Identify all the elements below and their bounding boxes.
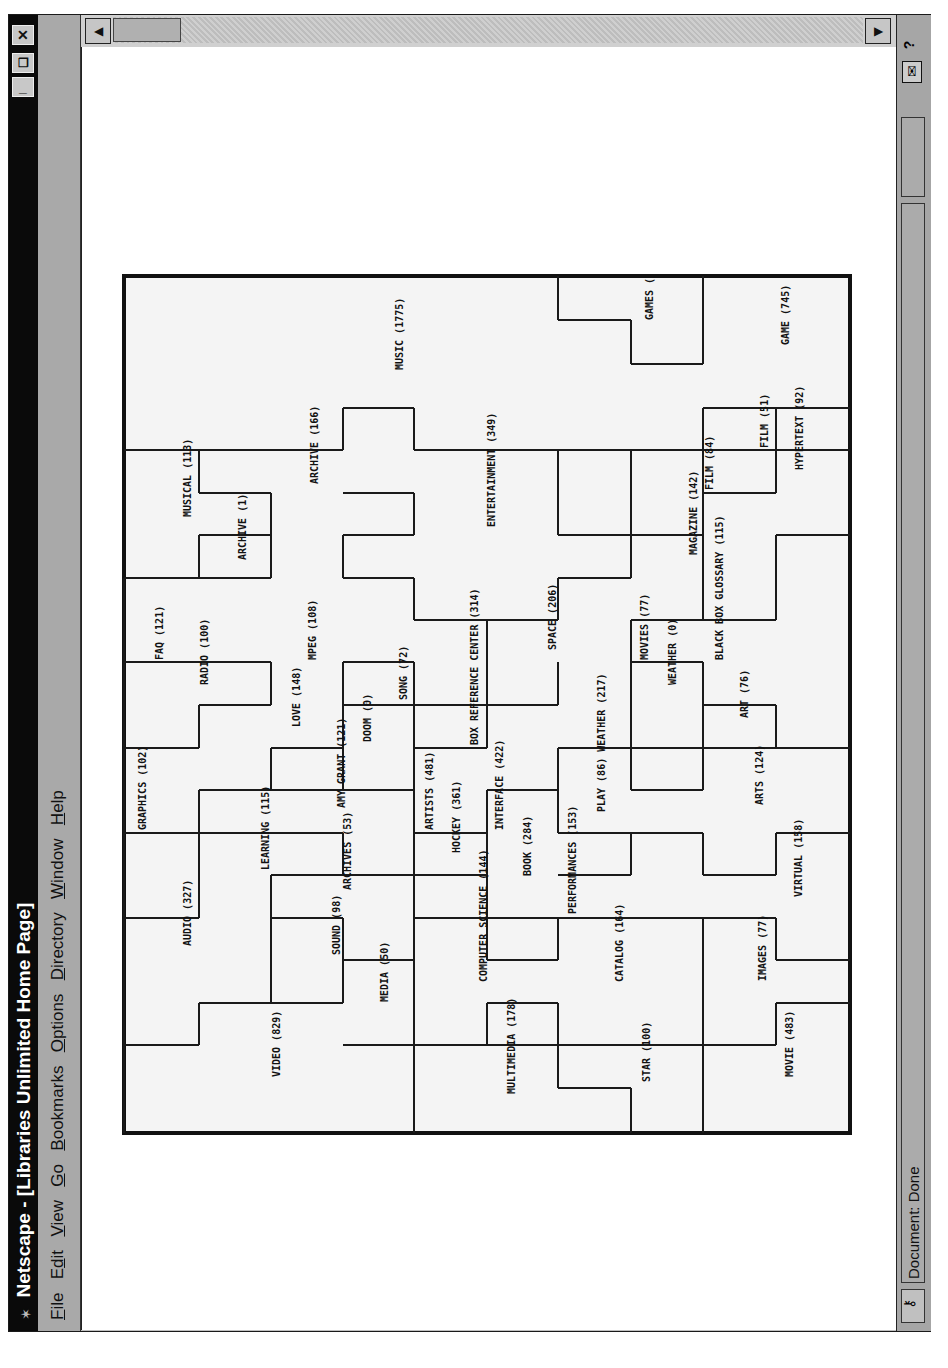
map-region-label[interactable]: BOOK (284) — [522, 816, 533, 876]
map-region-label[interactable]: RADIO (100) — [199, 619, 210, 685]
status-bar: Document: Done ⚷ ✉ ? — [896, 15, 931, 1331]
menu-bookmarks[interactable]: Bookmarks — [48, 1066, 67, 1151]
map-region-label[interactable]: ART (76) — [739, 670, 750, 718]
map-region-label[interactable]: AUDIO (327) — [182, 880, 193, 946]
help-indicator[interactable]: ? — [903, 37, 923, 57]
map-region-label[interactable]: VIDEO (829) — [271, 1011, 282, 1077]
scroll-left-button[interactable]: ◀ — [85, 18, 111, 44]
map-region-label[interactable]: GAME (745) — [780, 285, 791, 345]
restore-button[interactable]: ❐ — [12, 53, 34, 73]
map-region-label[interactable]: MULTIMEDIA (178) — [506, 998, 517, 1094]
map-region-label[interactable]: SONG (72) — [398, 646, 409, 700]
progress-field — [901, 117, 925, 197]
map-region-label[interactable]: ARTISTS (481) — [424, 752, 435, 830]
scroll-track[interactable] — [113, 17, 863, 43]
map-region-label[interactable]: PERFORMANCES (153) — [567, 806, 578, 914]
map-region-label[interactable]: GRAPHICS (102) — [137, 746, 148, 830]
map-region-label[interactable]: AMY GRANT (121) — [336, 718, 347, 808]
map-region-label[interactable]: SPACE (206) — [547, 584, 558, 650]
map-region-label[interactable]: INTERFACE (422) — [494, 740, 505, 830]
broken-key-icon: ⚷ — [901, 1299, 917, 1309]
envelope-icon: ✉ — [904, 65, 920, 77]
map-region-label[interactable]: COMPUTER SCIENCE (144) — [478, 850, 489, 982]
map-region-label[interactable]: VIRTUAL (158) — [793, 819, 804, 897]
map-region-label[interactable]: FILM (51) — [759, 394, 770, 448]
map-region-label[interactable]: ARTS (124) — [754, 745, 765, 805]
map-region-label[interactable]: MUSIC (1775) — [394, 298, 405, 370]
menu-view[interactable]: View — [48, 1200, 67, 1237]
map-region-label[interactable]: BLACK BOX GLOSSARY (115) — [714, 516, 725, 661]
menu-go[interactable]: Go — [48, 1164, 67, 1187]
map-region-label[interactable]: GAMES ( — [644, 278, 655, 320]
menu-directory[interactable]: Directory — [48, 912, 67, 980]
map-region-label[interactable]: IMAGES (77) — [757, 915, 768, 981]
menu-file[interactable]: File — [48, 1293, 67, 1320]
map-region-label[interactable]: MEDIA (50) — [379, 942, 390, 1002]
menu-help[interactable]: Help — [48, 790, 67, 825]
menu-window[interactable]: Window — [48, 838, 67, 898]
map-region-label[interactable]: MPEG (108) — [307, 600, 318, 660]
minimize-button[interactable]: _ — [12, 77, 34, 97]
map-region-label[interactable]: WEATHER (0) — [667, 619, 678, 685]
question-icon: ? — [901, 41, 917, 50]
map-region-label[interactable]: LOVE (148) — [291, 667, 302, 727]
map-region-label[interactable]: CATALOG (164) — [614, 904, 625, 982]
map-region-label[interactable]: MUSICAL (113) — [182, 439, 193, 517]
close-button[interactable]: ✕ — [12, 25, 34, 45]
map-region-label[interactable]: ARCHIVE (166) — [309, 406, 320, 484]
map-region-label[interactable]: HOCKEY (361) — [451, 781, 462, 853]
scroll-right-button[interactable]: ▶ — [865, 18, 891, 44]
map-region-label[interactable]: ARCHIVES (53) — [342, 812, 353, 890]
scroll-thumb[interactable] — [113, 18, 181, 42]
netscape-logo-icon: ✶ — [18, 1302, 34, 1320]
map-region-label[interactable]: PLAY (86) WEATHER (217) — [596, 674, 607, 812]
map-region-label[interactable]: BOX REFERENCE CENTER (314) — [469, 588, 480, 745]
status-message-field: Document: Done — [901, 203, 925, 1283]
map-region-label[interactable]: MAGAZINE (142) — [688, 471, 699, 555]
menu-bar: File Edit View Go Bookmarks Options Dire… — [38, 15, 81, 1331]
map-region-label[interactable]: MOVIE (483) — [784, 1011, 795, 1077]
window-title: Netscape - [Libraries Unlimited Home Pag… — [13, 903, 34, 1298]
map-region-label[interactable]: FAQ (121) — [154, 606, 165, 660]
mail-button[interactable]: ✉ — [902, 61, 922, 83]
map-region-label[interactable]: ARCHIVE (1) — [237, 494, 248, 560]
map-region-label[interactable]: MOVIES (77) — [639, 594, 650, 660]
menu-options[interactable]: Options — [48, 994, 67, 1053]
map-region-label[interactable]: FILM (84) — [704, 436, 715, 490]
title-bar[interactable]: ✶ Netscape - [Libraries Unlimited Home P… — [9, 15, 38, 1331]
map-region-label[interactable]: HYPERTEXT (92) — [794, 386, 805, 470]
page-content — [81, 47, 897, 1330]
map-region-label[interactable]: LEARNING (115) — [260, 786, 271, 870]
map-region-label[interactable]: SOUND (98) — [331, 895, 342, 955]
menu-edit[interactable]: Edit — [48, 1250, 67, 1279]
map-region-label[interactable]: DOOM (0) — [362, 694, 373, 742]
security-indicator[interactable]: ⚷ — [901, 1289, 925, 1323]
status-text: Document: Done — [905, 1166, 922, 1279]
map-region-label[interactable]: ENTERTAINMENT (349) — [486, 413, 497, 527]
horizontal-scrollbar[interactable]: ◀ ▶ — [81, 15, 896, 48]
map-region-label[interactable]: STAR (100) — [641, 1022, 652, 1082]
